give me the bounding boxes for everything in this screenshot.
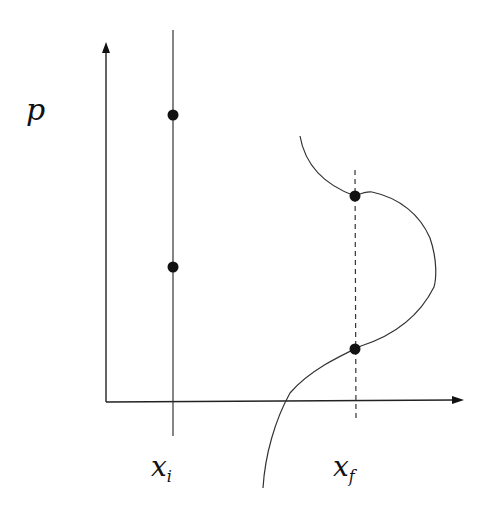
x-axis-arrow-icon: [452, 396, 464, 404]
xf-upper-point: [350, 191, 361, 202]
xf-label-sub: f: [349, 467, 355, 486]
xf-label-main: x: [333, 450, 349, 483]
y-axis: [102, 42, 110, 402]
xf-label: xf: [333, 450, 355, 483]
xi-upper-point: [168, 110, 179, 121]
xi-label-main: x: [151, 450, 167, 483]
xi-label-sub: i: [167, 467, 172, 486]
xi-label: xi: [151, 450, 172, 483]
xi-lower-point: [168, 262, 179, 273]
y-axis-arrow-icon: [102, 42, 110, 53]
p-axis-label: p: [26, 92, 45, 127]
diagram-canvas: [0, 0, 483, 511]
xf-lower-point: [350, 344, 361, 355]
trajectory-curve: [263, 136, 436, 488]
xf-dashed-line: [355, 170, 356, 420]
